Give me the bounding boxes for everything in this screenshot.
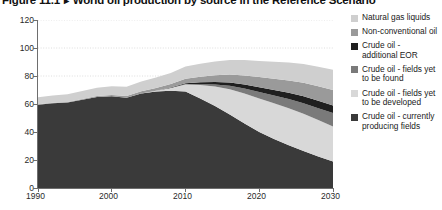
legend-label: Natural gas liquids [362, 13, 430, 23]
x-tick-label: 2000 [99, 191, 118, 201]
legend-label: Crude oil - fields yet to be developed [362, 89, 435, 108]
triangle-marker-icon: ▸ [60, 0, 73, 6]
figure-title: Figure 11.1▸World oil production by sour… [2, 0, 376, 6]
x-tick-label: 1990 [26, 191, 45, 201]
legend-swatch-icon [351, 114, 358, 121]
legend-label: Crude oil - currently producing fields [362, 112, 434, 131]
x-tick-label: 2030 [321, 191, 340, 201]
stacked-area-chart [38, 20, 333, 188]
x-tick-label: 2020 [247, 191, 266, 201]
y-axis-ticks: 120 100 80 60 40 20 0 [0, 0, 34, 210]
legend-swatch-icon [351, 29, 358, 36]
legend-swatch-icon [351, 90, 358, 97]
figure-title-text: World oil production by source in the Re… [73, 0, 376, 6]
legend-swatch-icon [351, 43, 358, 50]
y-axis-line [37, 20, 38, 189]
legend-item-crude-oil-additional-eor[interactable]: Crude oil - additional EOR [351, 41, 442, 60]
x-tick-label: 2010 [173, 191, 192, 201]
legend-item-crude-oil-currently-producing-fields[interactable]: Crude oil - currently producing fields [351, 112, 442, 131]
legend-label: Non-conventional oil [362, 27, 437, 37]
legend-swatch-icon [351, 66, 358, 73]
legend-item-crude-oil-fields-yet-to-be-developed[interactable]: Crude oil - fields yet to be developed [351, 89, 442, 108]
chart-legend: Natural gas liquids Non-conventional oil… [351, 13, 442, 136]
legend-swatch-icon [351, 15, 358, 22]
chart-plot-area [38, 20, 333, 188]
legend-label: Crude oil - additional EOR [362, 41, 418, 60]
y-tick-label: 100 [20, 43, 34, 53]
legend-item-non-conventional-oil[interactable]: Non-conventional oil [351, 27, 442, 37]
legend-item-crude-oil-fields-yet-to-be-found[interactable]: Crude oil - fields yet to be found [351, 65, 442, 84]
legend-label: Crude oil - fields yet to be found [362, 65, 435, 84]
y-tick-label: 120 [20, 15, 34, 25]
figure-container: Figure 11.1▸World oil production by sour… [0, 0, 442, 210]
legend-item-natural-gas-liquids[interactable]: Natural gas liquids [351, 13, 442, 23]
